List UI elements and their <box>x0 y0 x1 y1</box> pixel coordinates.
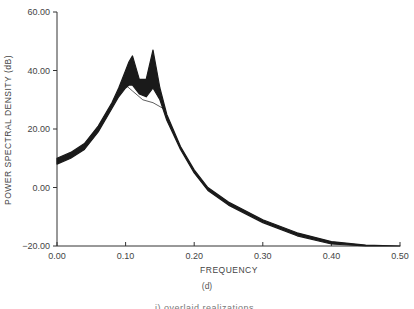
y-tick-label: 20.00 <box>27 124 50 134</box>
x-tick-label: 0.10 <box>117 251 135 261</box>
y-axis-title: POWER SPECTRAL DENSITY (dB) <box>3 55 13 205</box>
y-tick-label: −20.00 <box>22 241 50 251</box>
psd-chart: 0.000.100.200.300.400.50−20.000.0020.004… <box>0 0 414 309</box>
y-tick-label: 60.00 <box>27 7 50 17</box>
x-tick-label: 0.00 <box>48 251 66 261</box>
x-tick-label: 0.30 <box>254 251 272 261</box>
y-tick-label: 0.00 <box>32 183 50 193</box>
axes: 0.000.100.200.300.400.50−20.000.0020.004… <box>22 7 409 261</box>
realizations-band <box>57 50 400 246</box>
x-tick-label: 0.50 <box>391 251 409 261</box>
x-axis-title: FREQUENCY <box>200 265 258 275</box>
x-tick-label: 0.40 <box>323 251 341 261</box>
plot-area <box>57 50 400 246</box>
x-tick-label: 0.20 <box>185 251 203 261</box>
y-tick-label: 40.00 <box>27 66 50 76</box>
subfigure-label: (d) <box>0 281 414 291</box>
figure-caption-partial: i) overlaid realizations <box>155 301 254 309</box>
